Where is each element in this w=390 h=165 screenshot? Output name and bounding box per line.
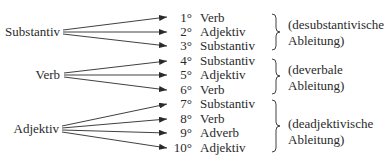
- arrow-6: [64, 77, 167, 90]
- target-num-9: 9°: [162, 126, 192, 140]
- target-label-1: Verb: [200, 11, 225, 25]
- target-label-9: Adverb: [200, 126, 239, 140]
- arrow-4: [64, 61, 167, 73]
- target-num-7: 7°: [162, 97, 192, 111]
- target-label-7: Substantiv: [200, 97, 255, 111]
- group-note-deadjektivisch: (deadjektivische Ableitung): [288, 116, 373, 148]
- target-num-1: 1°: [162, 11, 192, 25]
- source-adjektiv: Adjektiv: [0, 122, 59, 136]
- target-num-4: 4°: [162, 54, 192, 68]
- target-num-3: 3°: [162, 39, 192, 53]
- target-num-8: 8°: [162, 112, 192, 126]
- target-num-5: 5°: [162, 68, 192, 82]
- target-label-3: Substantiv: [200, 39, 255, 53]
- target-num-2: 2°: [162, 25, 192, 39]
- target-num-6: 6°: [162, 83, 192, 97]
- source-substantiv: Substantiv: [0, 25, 60, 39]
- target-label-6: Verb: [200, 83, 225, 97]
- arrow-10: [62, 132, 167, 148]
- target-num-10: 10°: [162, 141, 192, 155]
- arrow-7: [62, 104, 167, 126]
- target-label-2: Adjektiv: [200, 25, 246, 39]
- arrow-8: [62, 119, 167, 128]
- target-label-8: Verb: [200, 112, 225, 126]
- target-label-10: Adjektiv: [200, 141, 246, 155]
- target-label-4: Substantiv: [200, 54, 255, 68]
- arrow-9: [62, 130, 167, 133]
- brace-2: [272, 59, 280, 94]
- brace-3: [272, 100, 280, 152]
- group-note-desubstantivisch: (desubstantivische Ableitung): [288, 17, 384, 49]
- target-label-5: Adjektiv: [200, 68, 246, 82]
- brace-1: [272, 14, 280, 50]
- source-verb: Verb: [0, 68, 60, 82]
- group-note-deverbal: (deverbale Ableitung): [288, 62, 344, 94]
- arrow-3: [63, 34, 167, 46]
- arrow-1: [63, 17, 167, 30]
